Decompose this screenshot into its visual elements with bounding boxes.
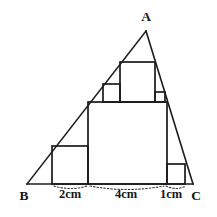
figure-canvas: A B C 2cm 4cm 1cm (0, 0, 217, 217)
side-ac-line (146, 31, 193, 184)
square-upper-left (103, 84, 120, 102)
square-upper-right (155, 92, 165, 102)
dimension-labels: 2cm 4cm 1cm (59, 187, 183, 201)
inscribed-squares (52, 62, 185, 184)
square-upper-center (120, 62, 155, 102)
vertex-label-a: A (141, 9, 151, 24)
vertex-labels: A B C (19, 9, 200, 203)
dimension-label-1cm: 1cm (160, 187, 183, 201)
square-right-lower (167, 164, 185, 184)
vertex-label-b: B (19, 188, 28, 203)
square-center-large (88, 102, 167, 184)
side-ab-line (27, 31, 146, 184)
vertex-label-c: C (191, 188, 201, 203)
square-left-lower (52, 146, 88, 184)
dimension-label-2cm: 2cm (59, 187, 82, 201)
geometry-figure: A B C 2cm 4cm 1cm (0, 0, 217, 217)
dimension-label-4cm: 4cm (115, 187, 138, 201)
